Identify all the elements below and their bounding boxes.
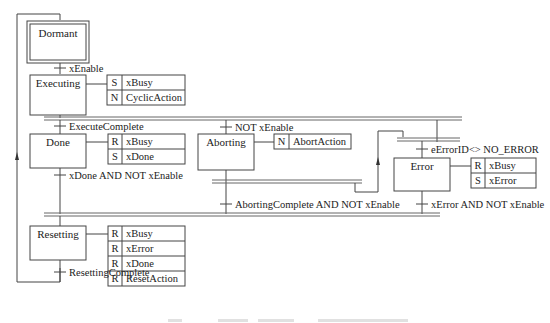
step-done-label: Done bbox=[46, 136, 70, 148]
step-resetting-label: Resetting bbox=[37, 228, 79, 240]
step-executing-label: Executing bbox=[36, 77, 81, 89]
figure-caption-truncated bbox=[0, 312, 550, 323]
transition-eerrorid[interactable]: eErrorID<> NO_ERROR bbox=[416, 144, 539, 155]
action-qualifier: N bbox=[278, 136, 286, 147]
step-dormant[interactable]: Dormant bbox=[27, 21, 89, 63]
action-qualifier: S bbox=[112, 77, 118, 88]
sfc-diagram: Dormant xEnable Executing S xBusy N Cycl… bbox=[0, 0, 550, 323]
transition-xenable-label: xEnable bbox=[69, 63, 104, 74]
caption-fragment bbox=[218, 319, 248, 322]
transition-resettingcomplete[interactable]: ResettingComplete bbox=[54, 267, 150, 278]
caption-fragment bbox=[318, 319, 408, 322]
arrow-up-icon bbox=[15, 152, 19, 160]
step-aborting-label: Aborting bbox=[206, 136, 246, 148]
caption-fragment bbox=[168, 319, 182, 322]
action-qualifier: R bbox=[111, 136, 118, 147]
convergence-bar-bottom bbox=[44, 213, 440, 216]
arrow-up-icon bbox=[376, 157, 380, 165]
step-executing[interactable]: Executing bbox=[30, 75, 86, 115]
transition-resettingcomplete-label: ResettingComplete bbox=[69, 267, 150, 278]
action-name: xBusy bbox=[126, 136, 154, 147]
action-qualifier: R bbox=[474, 160, 481, 171]
action-name: xDone bbox=[126, 151, 154, 162]
action-block-done: R xBusy S xDone bbox=[108, 134, 185, 164]
transition-xdone-and-not-xenable[interactable]: xDone AND NOT xEnable bbox=[54, 170, 183, 181]
transition-executecomplete[interactable]: ExecuteComplete bbox=[54, 121, 144, 132]
action-block-aborting: N AbortAction bbox=[274, 134, 351, 149]
step-error-label: Error bbox=[410, 160, 434, 172]
step-done[interactable]: Done bbox=[30, 134, 86, 168]
transition-xerror[interactable]: xError AND NOT xEnable bbox=[416, 199, 545, 210]
action-qualifier: R bbox=[111, 228, 118, 239]
transition-xenable[interactable]: xEnable bbox=[54, 63, 104, 74]
action-name: xError bbox=[126, 243, 154, 254]
action-qualifier: S bbox=[112, 151, 118, 162]
action-block-executing: S xBusy N CyclicAction bbox=[107, 75, 185, 105]
divergence-bar-top bbox=[44, 117, 462, 120]
transition-xerror-label: xError AND NOT xEnable bbox=[431, 199, 545, 210]
transition-executecomplete-label: ExecuteComplete bbox=[69, 121, 144, 132]
transition-eerrorid-label: eErrorID<> NO_ERROR bbox=[431, 144, 539, 155]
divergence-bar-aborting bbox=[212, 180, 362, 183]
action-name: xBusy bbox=[126, 77, 154, 88]
transition-abortingcomplete-label: AbortingComplete AND NOT xEnable bbox=[235, 199, 400, 210]
action-qualifier: S bbox=[475, 175, 481, 186]
step-resetting[interactable]: Resetting bbox=[30, 226, 86, 260]
action-qualifier: N bbox=[111, 92, 119, 103]
caption-fragment bbox=[258, 319, 294, 322]
transition-not-xenable[interactable]: NOT xEnable bbox=[220, 122, 294, 133]
step-dormant-label: Dormant bbox=[38, 27, 77, 39]
convergence-bar-error bbox=[397, 138, 460, 141]
action-name: xBusy bbox=[126, 228, 154, 239]
action-name: xError bbox=[489, 175, 517, 186]
transition-xdone-label: xDone AND NOT xEnable bbox=[69, 170, 183, 181]
action-qualifier: R bbox=[111, 243, 118, 254]
action-block-error: R xBusy S xError bbox=[471, 158, 536, 188]
action-name: AbortAction bbox=[293, 136, 347, 147]
transition-abortingcomplete[interactable]: AbortingComplete AND NOT xEnable bbox=[220, 199, 400, 210]
action-name: CyclicAction bbox=[126, 92, 183, 103]
step-aborting[interactable]: Aborting bbox=[198, 134, 254, 170]
transition-not-xenable-label: NOT xEnable bbox=[235, 122, 294, 133]
action-name: xBusy bbox=[489, 160, 517, 171]
step-error[interactable]: Error bbox=[394, 158, 450, 191]
